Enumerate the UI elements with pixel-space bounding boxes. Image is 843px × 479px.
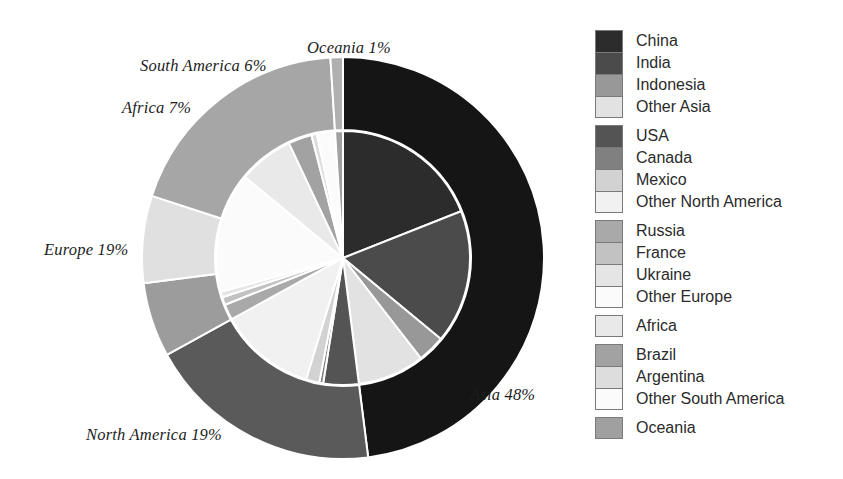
legend-item-china[interactable]: China — [595, 30, 835, 52]
legend-group-south-america-group: BrazilArgentinaOther South America — [595, 344, 835, 410]
legend-swatch-indonesia — [595, 74, 623, 96]
legend-item-other-europe[interactable]: Other Europe — [595, 286, 835, 308]
legend-label-other-europe: Other Europe — [636, 286, 732, 308]
legend-item-argentina[interactable]: Argentina — [595, 366, 835, 388]
legend-swatch-oceania — [595, 417, 623, 439]
legend-swatch-other-europe — [595, 286, 623, 308]
legend-item-mexico[interactable]: Mexico — [595, 169, 835, 191]
legend-group-europe-group: RussiaFranceUkraineOther Europe — [595, 220, 835, 308]
slice-label-africa-7: Africa 7% — [122, 98, 191, 118]
legend-swatch-brazil — [595, 344, 623, 366]
slice-label-asia-48: Asia 48% — [470, 385, 535, 405]
legend-swatch-other-asia — [595, 96, 623, 118]
legend-swatch-canada — [595, 147, 623, 169]
slice-label-south-america-6: South America 6% — [140, 56, 267, 76]
legend-label-canada: Canada — [636, 147, 692, 169]
legend-label-china: China — [636, 30, 678, 52]
legend-swatch-argentina — [595, 366, 623, 388]
legend-label-other-asia: Other Asia — [636, 96, 711, 118]
legend-item-africa[interactable]: Africa — [595, 315, 835, 337]
legend-label-africa: Africa — [636, 315, 677, 337]
legend: ChinaIndiaIndonesiaOther AsiaUSACanadaMe… — [595, 30, 835, 439]
legend-item-other-south-america[interactable]: Other South America — [595, 388, 835, 410]
legend-label-mexico: Mexico — [636, 169, 687, 191]
pie-chart-page: Asia 48%North America 19%South America 6… — [0, 0, 843, 479]
legend-label-france: France — [636, 242, 686, 264]
legend-label-usa: USA — [636, 125, 669, 147]
legend-swatch-france — [595, 242, 623, 264]
legend-item-canada[interactable]: Canada — [595, 147, 835, 169]
legend-label-indonesia: Indonesia — [636, 74, 705, 96]
legend-swatch-other-south-america — [595, 388, 623, 410]
legend-item-other-asia[interactable]: Other Asia — [595, 96, 835, 118]
legend-group-north-america-group: USACanadaMexicoOther North America — [595, 125, 835, 213]
legend-group-asia-group: ChinaIndiaIndonesiaOther Asia — [595, 30, 835, 118]
legend-label-other-north-america: Other North America — [636, 191, 782, 213]
inner-pie-slices: China 19%India 17%Indonesia 3.5%Other As… — [216, 131, 470, 385]
legend-item-ukraine[interactable]: Ukraine — [595, 264, 835, 286]
legend-swatch-usa — [595, 125, 623, 147]
legend-label-oceania: Oceania — [636, 417, 696, 439]
legend-swatch-india — [595, 52, 623, 74]
legend-item-russia[interactable]: Russia — [595, 220, 835, 242]
legend-swatch-mexico — [595, 169, 623, 191]
legend-group-africa-group: Africa — [595, 315, 835, 337]
legend-swatch-china — [595, 30, 623, 52]
legend-label-brazil: Brazil — [636, 344, 676, 366]
legend-label-russia: Russia — [636, 220, 685, 242]
legend-label-other-south-america: Other South America — [636, 388, 785, 410]
legend-item-brazil[interactable]: Brazil — [595, 344, 835, 366]
legend-label-india: India — [636, 52, 671, 74]
legend-group-oceania-group: Oceania — [595, 417, 835, 439]
legend-item-other-north-america[interactable]: Other North America — [595, 191, 835, 213]
legend-swatch-russia — [595, 220, 623, 242]
legend-item-india[interactable]: India — [595, 52, 835, 74]
slice-label-oceania-1: Oceania 1% — [307, 38, 391, 58]
legend-swatch-ukraine — [595, 264, 623, 286]
legend-swatch-africa — [595, 315, 623, 337]
legend-item-france[interactable]: France — [595, 242, 835, 264]
legend-item-usa[interactable]: USA — [595, 125, 835, 147]
nested-pie-chart: Asia 48%North America 19%South America 6… — [0, 0, 580, 479]
legend-item-oceania[interactable]: Oceania — [595, 417, 835, 439]
legend-label-ukraine: Ukraine — [636, 264, 691, 286]
legend-label-argentina: Argentina — [636, 366, 705, 388]
slice-label-europe-19: Europe 19% — [44, 240, 128, 260]
slice-label-north-america-19: North America 19% — [86, 425, 222, 445]
legend-swatch-other-north-america — [595, 191, 623, 213]
legend-item-indonesia[interactable]: Indonesia — [595, 74, 835, 96]
